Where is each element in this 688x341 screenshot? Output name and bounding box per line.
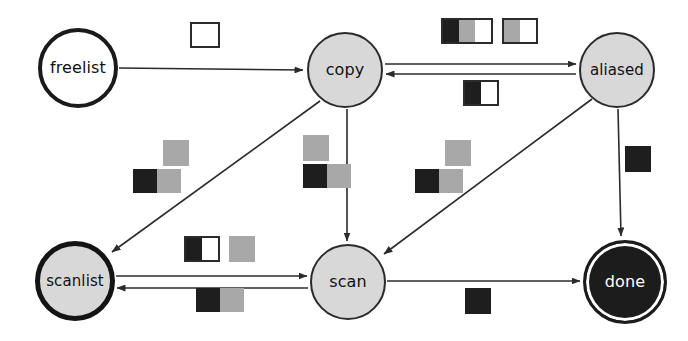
label-cell-gray xyxy=(504,20,520,42)
label-cell-group xyxy=(463,80,499,106)
label-scanlist-scan-top xyxy=(184,236,255,262)
edge-freelist-to-copy xyxy=(119,68,303,70)
label-cell-group xyxy=(625,146,651,172)
edge-aliased-to-done xyxy=(618,109,621,236)
label-cell-gray xyxy=(459,20,475,42)
label-row xyxy=(133,169,181,193)
label-row xyxy=(303,164,351,188)
label-copy-aliased-bottom xyxy=(463,80,499,106)
label-cell-white xyxy=(475,20,491,42)
label-cell-black xyxy=(133,169,157,193)
label-cell-white xyxy=(520,20,536,42)
node-scanlist[interactable]: scanlist xyxy=(35,241,115,321)
state-diagram: freelistcopyaliasedscanlistscandone xyxy=(0,0,688,341)
label-freelist-copy xyxy=(190,22,220,48)
label-cell-white xyxy=(481,82,497,104)
label-cell-white xyxy=(192,24,218,46)
node-label-scanlist: scanlist xyxy=(46,274,104,289)
label-row xyxy=(303,135,329,161)
label-cell-black xyxy=(196,288,220,312)
label-aliased-scan xyxy=(415,140,471,193)
label-cell-gray xyxy=(157,169,181,193)
node-label-done: done xyxy=(605,274,645,290)
label-row xyxy=(465,288,491,314)
label-row xyxy=(196,288,244,312)
label-cell-group xyxy=(465,288,491,314)
label-cell-black xyxy=(625,146,651,172)
label-cell-gray xyxy=(303,135,329,161)
label-cell-gray xyxy=(445,140,471,166)
label-cell-group xyxy=(133,169,181,193)
label-copy-scan xyxy=(303,135,351,188)
label-cell-black xyxy=(465,82,481,104)
node-label-freelist: freelist xyxy=(50,60,106,76)
label-cell-black xyxy=(186,238,202,260)
label-cell-group xyxy=(190,22,220,48)
label-cell-gray xyxy=(327,164,351,188)
label-cell-black xyxy=(465,288,491,314)
label-scan-done xyxy=(465,288,491,314)
label-row xyxy=(163,140,189,166)
label-aliased-done xyxy=(625,146,651,172)
node-aliased[interactable]: aliased xyxy=(579,32,655,108)
node-freelist[interactable]: freelist xyxy=(38,28,118,108)
label-cell-gray xyxy=(439,169,463,193)
label-cell-group xyxy=(502,18,538,44)
label-scanlist-scan-bottom xyxy=(196,288,244,312)
label-cell-group xyxy=(441,18,493,44)
label-row xyxy=(463,80,499,106)
label-cell-gray xyxy=(229,236,255,262)
label-cell-black xyxy=(415,169,439,193)
node-label-aliased: aliased xyxy=(590,63,644,78)
label-row xyxy=(441,18,538,44)
label-cell-group xyxy=(196,288,244,312)
label-cell-gray xyxy=(163,140,189,166)
node-label-scan: scan xyxy=(329,274,366,290)
node-scan[interactable]: scan xyxy=(310,244,386,320)
label-cell-group xyxy=(229,236,255,262)
label-cell-black xyxy=(303,164,327,188)
label-cell-black xyxy=(443,20,459,42)
label-row xyxy=(625,146,651,172)
label-cell-white xyxy=(202,238,218,260)
label-cell-group xyxy=(415,169,463,193)
label-copy-aliased-top xyxy=(441,18,538,44)
label-cell-group xyxy=(303,164,351,188)
node-done[interactable]: done xyxy=(583,240,667,324)
label-cell-group xyxy=(163,140,189,166)
node-label-copy: copy xyxy=(326,62,365,78)
label-row xyxy=(415,169,463,193)
label-row xyxy=(445,140,471,166)
label-cell-group xyxy=(445,140,471,166)
node-copy[interactable]: copy xyxy=(307,32,383,108)
label-cell-gray xyxy=(220,288,244,312)
label-row xyxy=(184,236,255,262)
label-row xyxy=(190,22,220,48)
label-copy-scanlist xyxy=(133,140,189,193)
label-cell-group xyxy=(303,135,329,161)
label-cell-group xyxy=(184,236,220,262)
